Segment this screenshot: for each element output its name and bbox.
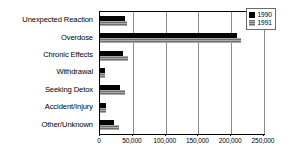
bar-group (100, 64, 264, 81)
legend-swatch-icon (249, 12, 255, 18)
x-tick-label: 100,000 (153, 137, 176, 144)
bar-chart: Unexpected Reaction Overdose Chronic Eff… (0, 0, 294, 164)
x-tick-label: 200,000 (219, 137, 242, 144)
bar-group (100, 29, 264, 46)
x-axis: 050,000100,000150,000200,000250,000 (99, 134, 264, 152)
bar-group (100, 117, 264, 134)
bar-group (100, 82, 264, 99)
category-label: Unexpected Reaction (0, 11, 96, 28)
x-tick-label: 50,000 (122, 137, 141, 144)
plot-area (99, 11, 265, 135)
bar-1991 (100, 38, 241, 43)
bar-1991 (100, 125, 119, 130)
bar-1991 (100, 21, 127, 26)
category-label: Accident/Injury (0, 98, 96, 115)
bar-group (100, 12, 264, 29)
legend-swatch-icon (249, 20, 255, 26)
x-tick-label: 250,000 (252, 137, 275, 144)
x-tick-mark (132, 134, 133, 136)
gridline (264, 12, 265, 134)
x-tick-mark (263, 134, 264, 136)
legend-item-1991: 1991 (249, 19, 272, 27)
bar-group (100, 99, 264, 116)
bar-1991 (100, 108, 106, 113)
legend-label: 1991 (258, 19, 272, 27)
bar-1991 (100, 90, 125, 95)
category-axis: Unexpected Reaction Overdose Chronic Eff… (0, 11, 96, 133)
x-tick-mark (165, 134, 166, 136)
category-label: Chronic Effects (0, 46, 96, 63)
x-tick-mark (99, 134, 100, 136)
x-tick-mark (197, 134, 198, 136)
bar-1991 (100, 73, 105, 78)
category-label: Other/Unknown (0, 116, 96, 133)
legend: 1990 1991 (246, 8, 276, 30)
bar-group (100, 47, 264, 64)
category-label: Withdrawal (0, 63, 96, 80)
x-tick-label: 150,000 (186, 137, 209, 144)
legend-label: 1990 (258, 11, 272, 19)
category-label: Overdose (0, 28, 96, 45)
category-label: Seeking Detox (0, 81, 96, 98)
bar-series-group (100, 12, 264, 134)
bar-1991 (100, 56, 128, 61)
x-tick-mark (230, 134, 231, 136)
legend-item-1990: 1990 (249, 11, 272, 19)
x-tick-label: 0 (97, 137, 101, 144)
